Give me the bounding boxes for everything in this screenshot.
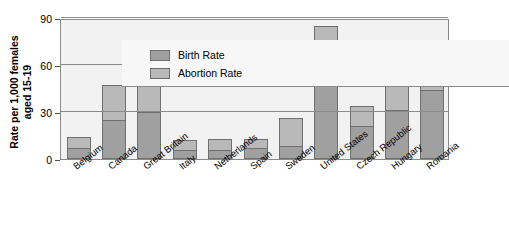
bar-segment-abortion-rate	[350, 106, 374, 126]
bar-segment-birth-rate	[420, 90, 444, 159]
bar-segment-abortion-rate	[67, 137, 91, 148]
bar-italy	[173, 140, 197, 159]
bar-segment-birth-rate	[102, 120, 126, 159]
bar-spain	[244, 139, 268, 159]
bar-segment-birth-rate	[244, 148, 268, 159]
y-axis-title-line-1: Rate per 1,000 females	[8, 35, 21, 148]
bar-canada	[102, 85, 126, 159]
bar-segment-birth-rate	[208, 150, 232, 159]
bar-segment-birth-rate	[173, 150, 197, 159]
bar-segment-abortion-rate	[173, 140, 197, 149]
bar-belgium	[67, 137, 91, 159]
bar-segment-birth-rate	[137, 112, 161, 159]
bar-segment-birth-rate	[279, 146, 303, 159]
gridline-30	[61, 111, 448, 112]
plot-area: Birth Rate Abortion Rate	[60, 19, 449, 160]
bar-segment-abortion-rate	[279, 118, 303, 146]
bar-great-britain	[137, 82, 161, 159]
chart-legend: Birth Rate Abortion Rate	[122, 40, 509, 87]
bar-sweden	[279, 118, 303, 159]
bar-segment-abortion-rate	[102, 85, 126, 119]
legend-item-birth-rate: Birth Rate	[150, 46, 509, 64]
bar-segment-abortion-rate	[244, 139, 268, 148]
birth-rate-swatch-icon	[150, 50, 170, 61]
y-axis-title: Rate per 1,000 females aged 15-19	[7, 18, 35, 166]
y-tick-mark-0	[55, 160, 60, 161]
bar-segment-birth-rate	[385, 110, 409, 159]
bar-segment-birth-rate	[350, 126, 374, 159]
legend-label-birth-rate: Birth Rate	[178, 49, 225, 61]
bar-segment-birth-rate	[67, 148, 91, 159]
gridline-90	[61, 17, 448, 18]
bar-segment-abortion-rate	[208, 139, 232, 150]
legend-label-abortion-rate: Abortion Rate	[178, 67, 242, 79]
abortion-rate-swatch-icon	[150, 68, 170, 79]
y-axis-title-line-2: aged 15-19	[21, 65, 34, 119]
legend-item-abortion-rate: Abortion Rate	[150, 64, 509, 82]
bar-netherlands	[208, 139, 232, 159]
bar-czech-republic	[350, 106, 374, 159]
